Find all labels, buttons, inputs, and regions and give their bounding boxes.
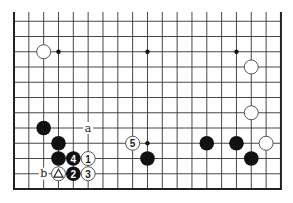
white-stone: 1 bbox=[81, 152, 95, 166]
star-point bbox=[56, 50, 60, 54]
move-number: 4 bbox=[71, 154, 77, 165]
move-number: 5 bbox=[130, 138, 136, 149]
white-stone: 5 bbox=[126, 136, 140, 150]
svg-text:a: a bbox=[85, 122, 92, 135]
go-board-diagram: 41235 ab bbox=[0, 0, 293, 203]
move-number: 1 bbox=[85, 154, 91, 165]
white-stone bbox=[244, 60, 258, 74]
move-number: 2 bbox=[71, 169, 77, 180]
black-stone: 2 bbox=[66, 166, 81, 181]
black-stone bbox=[51, 151, 66, 166]
star-point bbox=[145, 50, 149, 54]
white-stone: 3 bbox=[81, 167, 95, 181]
star-point bbox=[145, 141, 149, 145]
point-label-a: a bbox=[83, 122, 93, 135]
white-stone bbox=[51, 167, 65, 181]
white-stone bbox=[244, 106, 258, 120]
black-stone bbox=[244, 151, 259, 166]
black-stone bbox=[140, 151, 155, 166]
star-point bbox=[234, 50, 238, 54]
svg-text:b: b bbox=[40, 167, 47, 180]
black-stone bbox=[229, 136, 244, 151]
move-number: 3 bbox=[85, 169, 91, 180]
white-stone bbox=[37, 45, 51, 59]
black-stone: 4 bbox=[66, 151, 81, 166]
black-stone bbox=[199, 136, 214, 151]
black-stone bbox=[36, 121, 51, 136]
black-stone bbox=[51, 136, 66, 151]
point-label-b: b bbox=[39, 167, 49, 180]
white-stone bbox=[259, 136, 273, 150]
